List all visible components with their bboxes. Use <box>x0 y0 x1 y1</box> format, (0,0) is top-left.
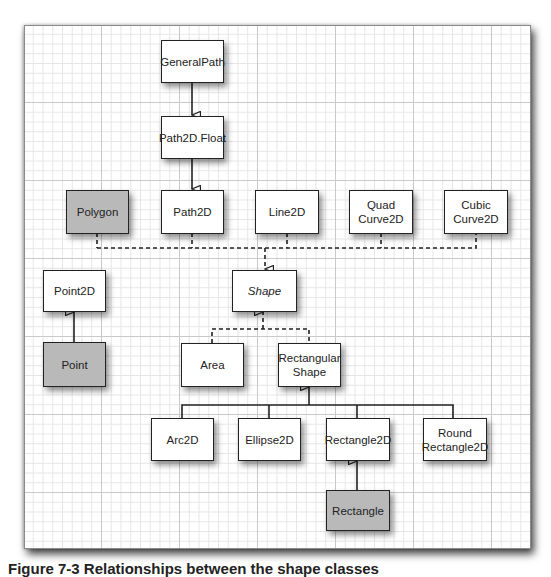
class-label: Shape <box>248 284 281 298</box>
class-label: Rectangle2D <box>325 433 391 447</box>
figure-caption: Figure 7-3 Relationships between the sha… <box>8 560 379 577</box>
class-box-line2d: Line2D <box>255 190 319 234</box>
class-box-rectangularshape: Rectangular Shape <box>278 343 341 387</box>
class-label-line2: Shape <box>293 365 326 379</box>
class-box-generalpath: GeneralPath <box>161 40 224 83</box>
class-label-line1: Rectangular <box>279 351 341 365</box>
class-box-point: Point <box>43 342 106 387</box>
class-box-ellipse2d: Ellipse2D <box>238 418 301 461</box>
class-label: Ellipse2D <box>245 433 294 447</box>
class-label-line2: Curve2D <box>453 212 498 226</box>
class-label: Line2D <box>269 205 305 219</box>
class-label-line1: Cubic <box>461 198 490 212</box>
class-label: Area <box>200 358 224 372</box>
class-box-area: Area <box>181 343 244 387</box>
class-label: Path2D.Float <box>159 131 226 145</box>
class-label-line2: Rectangle2D <box>422 440 488 454</box>
class-box-roundrectangle2d: Round Rectangle2D <box>423 418 487 461</box>
class-box-arc2d: Arc2D <box>151 418 214 461</box>
class-box-rectangle2d: Rectangle2D <box>326 418 390 461</box>
class-box-polygon: Polygon <box>66 190 129 234</box>
class-label: Polygon <box>77 205 119 219</box>
class-label-line1: Quad <box>367 198 395 212</box>
class-box-rectangle: Rectangle <box>326 490 390 531</box>
class-box-cubiccurve2d: Cubic Curve2D <box>444 190 508 234</box>
class-label: GeneralPath <box>160 55 225 69</box>
class-label: Point <box>61 358 87 372</box>
class-box-point2d: Point2D <box>43 270 106 312</box>
class-label: Arc2D <box>167 433 199 447</box>
class-label-line2: Curve2D <box>358 212 403 226</box>
edge-bus-rectangularshape-children <box>182 405 453 418</box>
class-label: Rectangle <box>332 504 384 518</box>
class-box-quadcurve2d: Quad Curve2D <box>349 190 413 234</box>
class-label-line1: Round <box>438 426 472 440</box>
class-label: Path2D <box>173 205 211 219</box>
edge-bus-area-rectangularshape <box>212 329 309 343</box>
class-box-path2d-float: Path2D.Float <box>161 116 224 159</box>
class-label: Point2D <box>54 284 95 298</box>
class-box-path2d: Path2D <box>161 190 224 234</box>
interface-box-shape: Shape <box>232 270 297 312</box>
